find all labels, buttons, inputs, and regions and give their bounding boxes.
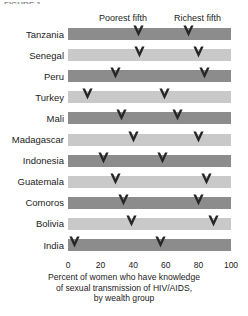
y-axis-label-peru: Peru: [0, 71, 64, 82]
y-axis-label-guatemala: Guatemala: [0, 176, 64, 187]
y-axis-label-indonesia: Indonesia: [0, 155, 64, 166]
caption-line-1: Percent of women who have knowledge: [10, 272, 238, 283]
chart-row: [68, 134, 231, 146]
y-axis-label-senegal: Senegal: [0, 50, 64, 61]
caption-line-3: by wealth group: [10, 293, 238, 304]
chart-row: [68, 112, 231, 124]
x-axis: 020406080100: [68, 259, 231, 273]
x-tick-label-100: 100: [224, 260, 238, 270]
plot-area: [68, 26, 231, 258]
x-tick-label-40: 40: [128, 260, 137, 270]
x-tick-label-20: 20: [96, 260, 105, 270]
gridline-100: [231, 26, 232, 258]
figure-container: FIGURE 1 Poorest fifth Richest fifth Tan…: [0, 0, 248, 316]
data-marker-richest[interactable]: [201, 173, 212, 185]
data-marker-poorest[interactable]: [110, 173, 121, 185]
chart-row: [68, 49, 231, 61]
data-marker-poorest[interactable]: [110, 67, 121, 79]
chart-row: [68, 239, 231, 251]
y-axis-category-labels: TanzaniaSenegalPeruTurkeyMaliMadagascarI…: [0, 26, 64, 258]
x-tick-label-0: 0: [66, 260, 71, 270]
y-axis-label-mali: Mali: [0, 113, 64, 124]
chart-caption: Percent of women who have knowledgeof se…: [10, 272, 238, 304]
data-marker-poorest[interactable]: [134, 46, 145, 58]
y-axis-label-madagascar: Madagascar: [0, 134, 64, 145]
data-marker-richest[interactable]: [155, 236, 166, 248]
data-marker-richest[interactable]: [208, 215, 219, 227]
chart-row: [68, 197, 231, 209]
chart-row: [68, 70, 231, 82]
data-marker-poorest[interactable]: [82, 88, 93, 100]
caption-line-2: of sexual transmission of HIV/AIDS,: [10, 283, 238, 294]
annotation-poorest-fifth: Poorest fifth: [99, 13, 147, 24]
data-marker-poorest[interactable]: [133, 25, 144, 37]
chart-row: [68, 91, 231, 103]
data-marker-poorest[interactable]: [116, 109, 127, 121]
data-marker-poorest[interactable]: [69, 236, 80, 248]
y-axis-label-bolivia: Bolivia: [0, 218, 64, 229]
chart-row: [68, 218, 231, 230]
chart-row: [68, 176, 231, 188]
data-marker-richest[interactable]: [183, 25, 194, 37]
chart-row: [68, 28, 231, 40]
x-tick-label-80: 80: [194, 260, 203, 270]
y-axis-label-tanzania: Tanzania: [0, 29, 64, 40]
y-axis-label-india: India: [0, 240, 64, 251]
y-axis-label-comoros: Comoros: [0, 197, 64, 208]
data-marker-poorest[interactable]: [126, 215, 137, 227]
data-marker-richest[interactable]: [172, 109, 183, 121]
y-axis-label-turkey: Turkey: [0, 92, 64, 103]
data-marker-poorest[interactable]: [118, 194, 129, 206]
data-marker-richest[interactable]: [199, 67, 210, 79]
annotation-richest-fifth: Richest fifth: [174, 13, 221, 24]
chart-row: [68, 155, 231, 167]
x-tick-label-60: 60: [161, 260, 170, 270]
figure-top-cut-label: FIGURE 1: [4, 0, 58, 4]
data-marker-richest[interactable]: [159, 88, 170, 100]
